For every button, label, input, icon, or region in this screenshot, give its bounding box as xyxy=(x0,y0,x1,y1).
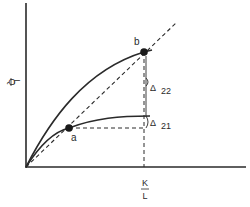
delta-21-brace xyxy=(146,116,148,128)
upper-curve xyxy=(26,50,152,167)
point-b-label: b xyxy=(134,36,140,47)
dashed-ray xyxy=(26,23,176,167)
lower-curve xyxy=(26,116,150,167)
x-axis-label-denominator: L xyxy=(142,191,147,201)
delta-22-symbol: Δ xyxy=(150,83,156,93)
point-a xyxy=(65,124,73,132)
point-a-label: a xyxy=(71,132,77,143)
y-axis-label: Q L xyxy=(7,78,22,86)
delta-21-subscript: 21 xyxy=(161,121,171,131)
x-axis-label-numerator: K xyxy=(142,178,148,188)
delta-22-subscript: 22 xyxy=(161,86,171,96)
y-axis-label-denominator: L xyxy=(12,79,22,84)
point-b xyxy=(140,48,148,56)
diagram-canvas: b a Δ 22 Δ 21 Q L K L xyxy=(0,0,250,207)
delta-21-symbol: Δ xyxy=(150,118,156,128)
